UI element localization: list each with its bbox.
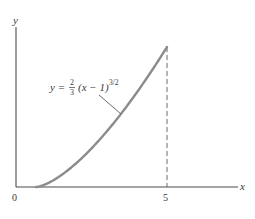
equation-lhs: y = xyxy=(49,81,68,93)
label-leader-line xyxy=(99,95,121,114)
x-axis-label: x xyxy=(239,180,245,192)
function-graph: y x 0 5 y = 2 3 (x − 1) 3/2 xyxy=(0,0,255,219)
x-tick-5-label: 5 xyxy=(163,192,168,203)
fraction-denominator: 3 xyxy=(70,88,74,97)
fraction-numerator: 2 xyxy=(70,78,74,87)
equation-body: (x − 1) xyxy=(78,81,109,94)
function-curve xyxy=(36,47,167,187)
equation-exponent: 3/2 xyxy=(109,78,119,87)
equation-label: y = 2 3 (x − 1) 3/2 xyxy=(49,78,119,97)
y-axis-label: y xyxy=(12,14,18,26)
origin-label: 0 xyxy=(12,192,17,203)
